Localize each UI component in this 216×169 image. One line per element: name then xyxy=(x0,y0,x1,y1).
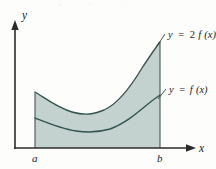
curve-label-upper-eq: = xyxy=(178,29,184,40)
curve-label-upper-coef: 2 xyxy=(190,29,195,40)
figure-container: y x a b y = 2 f (x) y = f (x) xyxy=(0,0,216,169)
curve-label-upper-fn: f xyxy=(198,29,203,40)
curve-label-lower-lhs: y xyxy=(168,84,174,95)
curve-label-lower: y = f (x) xyxy=(168,84,208,96)
x-tick-label-b: b xyxy=(157,152,163,164)
curve-label-lower-fn: f xyxy=(190,84,195,95)
y-axis-label: y xyxy=(21,9,28,22)
curve-label-lower-eq: = xyxy=(179,84,185,95)
x-axis-label: x xyxy=(198,142,205,154)
leader-line-upper xyxy=(157,34,165,46)
graph-canvas: y x a b y = 2 f (x) y = f (x) xyxy=(0,0,216,169)
curve-label-lower-arg: (x) xyxy=(196,84,208,96)
curve-label-upper-lhs: y xyxy=(167,29,173,40)
x-tick-label-a: a xyxy=(32,152,38,164)
curve-label-upper: y = 2 f (x) xyxy=(167,29,216,41)
y-axis-arrow-icon xyxy=(11,20,18,30)
x-axis-arrow-icon xyxy=(186,144,196,151)
curve-label-upper-arg: (x) xyxy=(204,29,216,41)
